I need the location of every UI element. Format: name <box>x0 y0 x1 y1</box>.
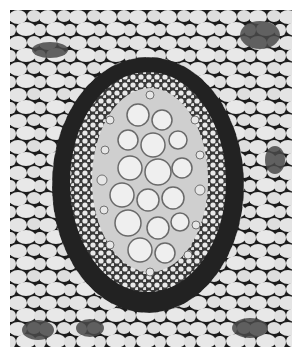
micrograph-frame <box>10 10 292 347</box>
vascular-bundle-micrograph <box>10 10 292 347</box>
